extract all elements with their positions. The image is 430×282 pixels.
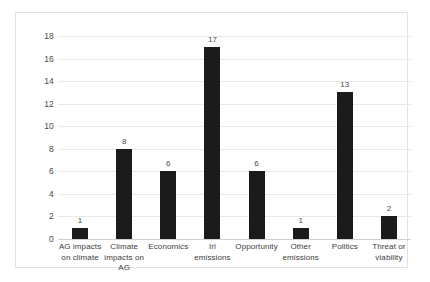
bar[interactable] — [249, 171, 265, 239]
bar-value-label: 13 — [340, 81, 349, 89]
bar-group: 2 — [367, 36, 411, 239]
y-axis-tick-label: 18 — [30, 32, 54, 41]
bar[interactable] — [293, 228, 309, 239]
bar-value-label: 17 — [208, 36, 217, 44]
bar-group: 1 — [58, 36, 102, 239]
y-axis-tick-label: 14 — [30, 77, 54, 86]
x-axis-tick-label: Climate impacts on AG — [102, 242, 146, 274]
y-axis-tick-label: 10 — [30, 122, 54, 131]
bar[interactable] — [160, 171, 176, 239]
bar-value-label: 1 — [78, 217, 82, 225]
bar-value-label: 1 — [298, 217, 302, 225]
y-axis-tick-label: 2 — [30, 212, 54, 221]
y-axis-tick-label: 12 — [30, 99, 54, 108]
x-axis-tick-label: Other emissions — [279, 242, 323, 263]
y-axis-tick-label: 6 — [30, 167, 54, 176]
gridline — [58, 239, 411, 240]
chart-container: 024681012141618 1861761132 AG impacts on… — [15, 12, 408, 268]
bar[interactable] — [116, 149, 132, 239]
bar[interactable] — [381, 216, 397, 239]
y-axis: 024681012141618 — [28, 36, 54, 239]
y-axis-tick-label: 0 — [30, 235, 54, 244]
x-axis-tick-label: Politics — [323, 242, 367, 253]
bar-value-label: 6 — [166, 160, 170, 168]
bar-group: 8 — [102, 36, 146, 239]
bar[interactable] — [337, 92, 353, 239]
bar-group: 13 — [323, 36, 367, 239]
bar-value-label: 6 — [254, 160, 258, 168]
y-axis-tick-label: 4 — [30, 190, 54, 199]
x-axis-tick-label: Economics — [146, 242, 190, 253]
x-axis-tick-label: Opportunity — [235, 242, 279, 253]
bar-group: 1 — [279, 36, 323, 239]
x-axis-category-labels: AG impacts on climateClimate impacts on … — [58, 242, 411, 282]
bar-group: 6 — [146, 36, 190, 239]
bar[interactable] — [204, 47, 220, 239]
x-axis-tick-label: Irl emissions — [190, 242, 234, 263]
bar-group: 6 — [235, 36, 279, 239]
x-axis-tick-label: Threat or viability — [367, 242, 411, 263]
y-axis-tick-label: 8 — [30, 145, 54, 154]
bar-group: 17 — [190, 36, 234, 239]
y-axis-tick-label: 16 — [30, 54, 54, 63]
bar[interactable] — [72, 228, 88, 239]
bar-value-label: 8 — [122, 138, 126, 146]
plot-area: 1861761132 — [58, 36, 411, 239]
bar-value-label: 2 — [387, 205, 391, 213]
x-axis-tick-label: AG impacts on climate — [58, 242, 102, 263]
